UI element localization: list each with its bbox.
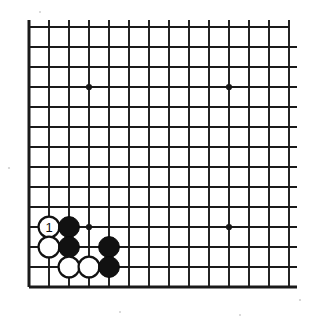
black-stone-d [99,237,120,258]
scan-speck [299,299,301,301]
star-point-upper-right [226,84,232,90]
star-point-upper-left [86,84,92,90]
white-stone-disc [39,237,60,258]
black-stone-disc [99,237,120,258]
white-stone-move-1: 1 [39,217,60,238]
star-point-lower-left [86,224,92,230]
black-stone-g [99,257,120,278]
black-stone-disc [59,237,80,258]
scan-speck [8,167,10,169]
stone-move-number: 1 [45,220,52,235]
scan-speck [39,11,41,13]
scan-speck [119,311,121,313]
black-stone-a [59,217,80,238]
go-board-diagram: 1 [0,0,316,324]
white-stone-disc [79,257,100,278]
scan-speck [239,314,241,316]
white-stone-b [39,237,60,258]
black-stone-c [59,237,80,258]
black-stone-disc [59,217,80,238]
white-stone-disc [59,257,80,278]
white-stone-f [79,257,100,278]
white-stone-e [59,257,80,278]
black-stone-disc [99,257,120,278]
star-point-lower-right [226,224,232,230]
go-board-canvas: 1 [0,0,316,324]
